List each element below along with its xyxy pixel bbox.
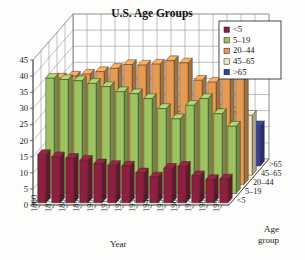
x-tick-label-year: 1950: [155, 195, 165, 212]
x-axis-title: Year: [110, 239, 127, 249]
legend-label: <5: [233, 24, 242, 34]
x-tick: [192, 205, 194, 208]
z-axis-title-line1: Age: [264, 224, 279, 234]
z-axis-title-line2: group: [258, 235, 279, 245]
legend: <55–1920–4445–65>65: [219, 21, 281, 79]
bar-side-face: [252, 110, 256, 175]
legend-swatch[interactable]: [224, 48, 229, 53]
x-tick-label-year: 1910: [99, 195, 109, 212]
x-tick: [108, 205, 110, 208]
z-tick-label-agegroup: 45–65: [261, 169, 281, 178]
x-tick-label-year: 1920: [113, 195, 123, 212]
z-tick-label-agegroup: <5: [237, 196, 246, 205]
x-tick: [38, 205, 40, 208]
y-tick-label: 35: [19, 87, 28, 97]
chart-title: U.S. Age Groups: [111, 7, 193, 20]
x-tick-label-year: 1990: [211, 195, 221, 212]
z-tick-label-agegroup: >65: [269, 160, 282, 169]
x-tick-label-year: 1880: [57, 195, 67, 212]
z-tick-label-agegroup: 20–44: [253, 178, 273, 187]
x-tick: [52, 205, 54, 208]
y-tick-label: 25: [19, 119, 28, 129]
y-tick-label: 45: [19, 55, 28, 65]
x-tick: [206, 205, 208, 208]
x-tick: [164, 205, 166, 208]
bar-front-face: [220, 179, 228, 203]
x-tick: [122, 205, 124, 208]
y-tick-label: 40: [19, 71, 28, 81]
chart-title-group: U.S. Age Groups: [111, 7, 193, 20]
y-tick-label: 5: [24, 184, 28, 194]
axis-titles: YearAgegroup: [110, 224, 279, 249]
x-tick: [80, 205, 82, 208]
x-tick: [94, 205, 96, 208]
y-tick-label: 0: [24, 200, 28, 210]
legend-swatch[interactable]: [224, 59, 229, 64]
x-tick: [66, 205, 68, 208]
x-tick: [220, 205, 222, 208]
y-tick-label: 30: [19, 103, 28, 113]
bar: [220, 174, 233, 203]
y-tick-label: 15: [19, 152, 28, 162]
x-tick-label-year: 1970: [183, 195, 193, 212]
x-tick-label-year: 1890: [71, 195, 81, 212]
x-tick-label-year: 1940: [141, 195, 151, 212]
x-tick-label-year: 1980: [197, 195, 207, 212]
legend-swatch[interactable]: [224, 27, 229, 32]
legend-label: 20–44: [233, 45, 255, 55]
z-tick-label-agegroup: 5–19: [245, 187, 261, 196]
x-tick-label-year: 1930: [127, 195, 137, 212]
x-tick: [150, 205, 152, 208]
x-tick-label-year: 1860: [29, 195, 39, 212]
x-tick-label-year: 1960: [169, 195, 179, 212]
y-tick-label: 10: [19, 168, 28, 178]
legend-swatch[interactable]: [224, 38, 229, 43]
x-tick-label-year: 1900: [85, 195, 95, 212]
y-tick-label: 20: [19, 136, 28, 146]
legend-label: 45–65: [233, 56, 254, 66]
x-tick-label-year: 1870: [43, 195, 53, 212]
bar-side-face: [236, 121, 240, 193]
x-tick: [178, 205, 180, 208]
chart-container: 0510152025303540451860187018801890190019…: [0, 0, 305, 260]
legend-swatch[interactable]: [224, 69, 229, 74]
x-tick: [136, 205, 138, 208]
age-groups-3d-bar-chart: 0510152025303540451860187018801890190019…: [0, 0, 305, 260]
legend-label: >65: [233, 67, 246, 77]
legend-label: 5–19: [233, 35, 250, 45]
bar-side-face: [260, 121, 264, 166]
